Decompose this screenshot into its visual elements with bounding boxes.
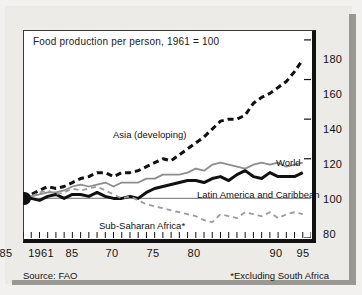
page-shadow-right <box>349 14 356 282</box>
y-tick-label-80: 80 <box>323 228 336 240</box>
x-tick-label-65: 85 <box>66 247 79 259</box>
origin-marker-group <box>23 192 31 205</box>
x-tick-label-90: 90 <box>270 247 283 259</box>
x-tick-label-80: 80 <box>188 247 201 259</box>
origin-marker-dot <box>23 192 31 205</box>
y-tick-label-120: 120 <box>323 158 342 170</box>
x-tick-label-1961: 1961 <box>28 247 54 259</box>
x-axis-ticks <box>23 232 311 238</box>
y-tick-label-180: 180 <box>323 53 342 65</box>
x-tick-label-85: 85 <box>0 247 12 259</box>
series-label-world: World <box>276 157 301 168</box>
footnote: *Excluding South Africa <box>230 270 329 281</box>
figure-root: Food production per person, 1961 = 100 1… <box>0 0 362 295</box>
x-tick-label-95: 95 <box>297 247 310 259</box>
y-tick-label-140: 140 <box>323 123 342 135</box>
series-label-asia: Asia (developing) <box>113 129 186 140</box>
x-tick-label-70: 70 <box>106 247 119 259</box>
series-label-sub-saharan-africa: Sub-Saharan Africa* <box>99 220 185 231</box>
series-label-latin-america: Latin America and Caribbean <box>197 189 320 200</box>
source-note: Source: FAO <box>23 270 77 281</box>
y-tick-label-160: 160 <box>323 88 342 100</box>
y-axis-ticks <box>304 40 311 238</box>
chart-title: Food production per person, 1961 = 100 <box>33 36 219 47</box>
y-tick-label-100: 100 <box>323 193 342 205</box>
chart-card: Food production per person, 1961 = 100 1… <box>6 8 349 280</box>
x-tick-label-75: 75 <box>147 247 160 259</box>
